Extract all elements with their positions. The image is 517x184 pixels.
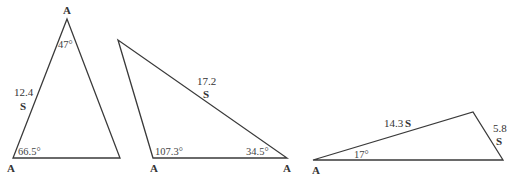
side-marker-s: S — [496, 135, 502, 147]
vertex-label-a: A — [63, 4, 71, 16]
angle-label: 17° — [354, 149, 369, 160]
triangle-3: A 17° 14.3 S 5.8 S — [312, 112, 507, 176]
triangle-2: A A 107.3° 34.5° 17.2 S — [118, 40, 291, 174]
triangles-diagram: A A 47° 66.5° 12.4 S A A 107.3° 34.5° 17… — [0, 0, 517, 184]
angle-label: 34.5° — [246, 146, 269, 157]
side-marker-s: S — [20, 100, 26, 112]
vertex-label-a: A — [283, 162, 291, 174]
vertex-label-a: A — [312, 164, 320, 176]
side-marker-s: S — [203, 88, 209, 100]
angle-label: 107.3° — [155, 146, 183, 157]
angle-label: 66.5° — [18, 146, 41, 157]
triangle-1: A A 47° 66.5° 12.4 S — [7, 4, 120, 174]
vertex-label-a: A — [150, 162, 158, 174]
side-marker-s: S — [405, 117, 411, 129]
side-length-label: 17.2 — [197, 75, 216, 87]
side-length-label: 14.3 — [384, 117, 404, 129]
angle-label: 47° — [58, 39, 73, 50]
vertex-label-a: A — [7, 162, 15, 174]
side-length-label: 12.4 — [14, 86, 34, 98]
side-length-label: 5.8 — [493, 122, 507, 134]
